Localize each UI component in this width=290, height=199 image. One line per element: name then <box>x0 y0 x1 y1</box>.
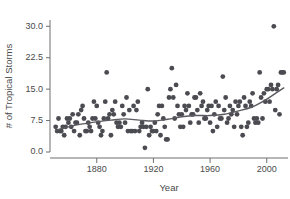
data-point <box>77 133 82 138</box>
data-point <box>254 116 259 121</box>
x-axis-title: Year <box>159 182 178 193</box>
data-point <box>171 95 176 100</box>
data-point <box>260 116 265 121</box>
data-point <box>203 116 208 121</box>
data-point <box>194 95 199 100</box>
data-point <box>67 116 72 121</box>
data-point <box>89 129 94 134</box>
x-tick-label: 1960 <box>200 164 220 174</box>
data-point <box>62 133 67 138</box>
data-point <box>236 104 241 109</box>
data-point <box>223 95 228 100</box>
data-point <box>267 99 272 104</box>
data-point <box>271 24 276 29</box>
data-point <box>111 112 116 117</box>
data-point <box>133 129 138 134</box>
y-tick-label: 22.5 <box>25 52 43 62</box>
data-point <box>109 133 114 138</box>
data-point <box>107 112 112 117</box>
data-point <box>155 112 160 117</box>
data-point <box>205 108 210 113</box>
data-point <box>147 133 152 138</box>
data-point <box>181 124 186 129</box>
data-point <box>124 95 129 100</box>
data-point <box>154 129 159 134</box>
data-point <box>228 104 233 109</box>
data-point <box>117 120 122 125</box>
y-axis: 0.07.515.022.530.0 <box>25 20 50 156</box>
y-axis-title: # of Tropical Storms <box>3 44 14 129</box>
data-point <box>276 83 281 88</box>
data-point <box>262 91 267 96</box>
y-axis-ticks: 0.07.515.022.530.0 <box>25 21 50 157</box>
data-point <box>243 104 248 109</box>
data-point <box>123 120 128 125</box>
data-point <box>270 87 275 92</box>
data-point <box>225 120 230 125</box>
data-point <box>94 104 99 109</box>
data-point <box>220 74 225 79</box>
data-point <box>167 95 172 100</box>
data-point <box>104 70 109 75</box>
data-point <box>79 108 84 113</box>
data-point <box>66 120 71 125</box>
scatter-plot: 0.07.515.022.530.0 1880192019602000 Year… <box>0 0 290 199</box>
data-point <box>127 108 132 113</box>
data-point <box>184 108 189 113</box>
data-point <box>174 83 179 88</box>
data-point <box>160 104 165 109</box>
data-point <box>186 104 191 109</box>
data-point <box>281 70 286 75</box>
data-point <box>70 112 75 117</box>
data-point <box>56 116 61 121</box>
y-tick-label: 0.0 <box>30 146 43 156</box>
data-point <box>259 95 264 100</box>
y-tick-label: 7.5 <box>30 115 43 125</box>
data-point <box>208 120 213 125</box>
data-point <box>213 99 218 104</box>
data-point <box>121 112 126 117</box>
data-point <box>87 124 92 129</box>
data-point <box>145 87 150 92</box>
data-point <box>148 124 153 129</box>
data-point <box>239 124 244 129</box>
x-axis-ticks: 1880192019602000 <box>87 158 277 174</box>
data-point <box>245 124 250 129</box>
data-point <box>257 70 262 75</box>
data-point <box>219 116 224 121</box>
data-point <box>233 99 238 104</box>
data-point <box>269 83 274 88</box>
data-point <box>100 129 105 134</box>
x-tick-label: 1920 <box>143 164 163 174</box>
data-point <box>198 91 203 96</box>
data-point <box>247 99 252 104</box>
x-axis: 1880192019602000 <box>50 158 288 174</box>
data-point <box>222 108 227 113</box>
data-point <box>135 99 140 104</box>
data-point <box>162 124 167 129</box>
data-point <box>99 133 104 138</box>
data-point <box>211 129 216 134</box>
data-point <box>175 104 180 109</box>
data-point <box>201 99 206 104</box>
data-point <box>53 124 58 129</box>
data-point <box>209 104 214 109</box>
data-point <box>165 137 170 142</box>
data-point <box>72 129 77 134</box>
data-point <box>226 116 231 121</box>
x-tick-label: 1880 <box>87 164 107 174</box>
data-point <box>250 91 255 96</box>
data-point <box>199 104 204 109</box>
data-point <box>131 104 136 109</box>
data-point <box>144 124 149 129</box>
data-point <box>235 112 240 117</box>
data-point <box>143 145 148 150</box>
data-point <box>232 124 237 129</box>
data-points <box>53 24 286 150</box>
data-point <box>134 108 139 113</box>
data-point <box>185 91 190 96</box>
data-point <box>182 104 187 109</box>
data-point <box>80 104 85 109</box>
data-point <box>256 120 261 125</box>
data-point <box>168 87 173 92</box>
